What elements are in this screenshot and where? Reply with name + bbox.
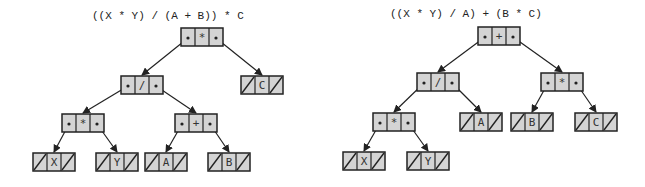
node-label: B	[226, 156, 233, 169]
pointer-dot-icon	[422, 81, 425, 84]
leaf-node-A: A	[145, 153, 187, 171]
leaf-node-X: X	[33, 153, 75, 171]
operator-node-*: *	[373, 113, 415, 131]
pointer-dot-icon	[450, 81, 453, 84]
leaf-node-B: B	[208, 153, 250, 171]
leaf-node-C: C	[575, 113, 617, 131]
pointer-dot-icon	[180, 122, 183, 125]
node-label: +	[193, 117, 200, 130]
pointer-dot-icon	[67, 122, 70, 125]
pointer-dot-icon	[511, 35, 514, 38]
node-label: *	[559, 76, 566, 89]
pointer-dot-icon	[483, 35, 486, 38]
node-label: *	[199, 31, 206, 44]
node-label: A	[478, 116, 485, 129]
pointer-dot-icon	[406, 121, 409, 124]
pointer-dot-icon	[95, 122, 98, 125]
operator-node-+: +	[175, 114, 217, 132]
pointer-dot-icon	[154, 84, 157, 87]
node-label: X	[51, 156, 58, 169]
operator-node-*: *	[541, 73, 583, 91]
node-label: A	[163, 156, 170, 169]
node-label: /	[139, 79, 146, 92]
pointer-dot-icon	[186, 36, 189, 39]
node-label: B	[529, 116, 536, 129]
operator-node-+: +	[478, 27, 520, 45]
leaf-node-B: B	[511, 113, 553, 131]
node-label: /	[435, 76, 442, 89]
node-label: C	[259, 79, 266, 92]
pointer-dot-icon	[546, 81, 549, 84]
operator-node-/: /	[121, 76, 163, 94]
pointer-dot-icon	[574, 81, 577, 84]
leaf-node-X: X	[343, 152, 385, 170]
leaf-node-Y: Y	[407, 152, 449, 170]
node-label: *	[80, 117, 87, 130]
pointer-dot-icon	[214, 36, 217, 39]
expression-tree-diagram: */C*+XYAB+/**ABCXY	[0, 0, 645, 187]
operator-node-*: *	[181, 28, 223, 46]
node-label: *	[391, 116, 398, 129]
node-label: X	[361, 155, 368, 168]
node-label: +	[496, 30, 503, 43]
node-label: Y	[114, 156, 121, 169]
leaf-node-Y: Y	[96, 153, 138, 171]
pointer-dot-icon	[378, 121, 381, 124]
leaf-node-C: C	[241, 76, 283, 94]
pointer-dot-icon	[126, 84, 129, 87]
node-label: Y	[425, 155, 432, 168]
node-label: C	[593, 116, 600, 129]
operator-node-*: *	[62, 114, 104, 132]
leaf-node-A: A	[460, 113, 502, 131]
pointer-dot-icon	[208, 122, 211, 125]
operator-node-/: /	[417, 73, 459, 91]
